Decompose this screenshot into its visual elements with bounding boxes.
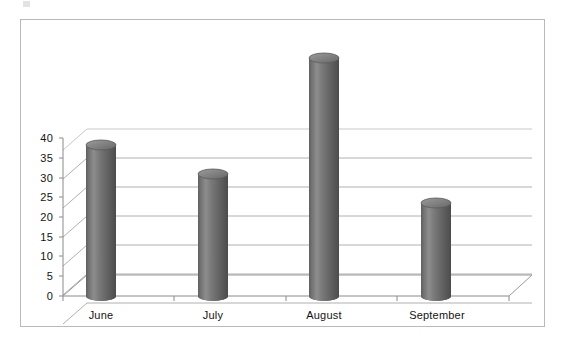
y-axis-tick-label-35: 35 xyxy=(25,153,53,164)
x-axis-label-september: September xyxy=(402,310,472,321)
bar-july-region xyxy=(198,169,229,301)
bar-september-region xyxy=(421,198,452,301)
x-axis-label-july: July xyxy=(191,310,235,321)
scan-artifact-mark xyxy=(23,1,30,7)
bar-august-region xyxy=(309,53,340,301)
y-axis-tick-label-25: 25 xyxy=(25,192,53,203)
y-axis-tick-label-0: 0 xyxy=(25,291,53,302)
x-axis-label-june: June xyxy=(79,310,123,321)
y-axis-tick-label-30: 30 xyxy=(25,173,53,184)
y-axis-tick-label-10: 10 xyxy=(25,251,53,262)
y-axis-tick-label-40: 40 xyxy=(25,133,53,144)
y-axis-tick-label-20: 20 xyxy=(25,212,53,223)
chart-frame: 0 5 10 15 20 25 30 35 40 June July Augus… xyxy=(20,19,545,327)
x-axis-label-august: August xyxy=(298,310,350,321)
y-axis-tick-label-15: 15 xyxy=(25,232,53,243)
y-axis-tick-label-5: 5 xyxy=(25,271,53,282)
bar-june-region xyxy=(86,140,117,301)
